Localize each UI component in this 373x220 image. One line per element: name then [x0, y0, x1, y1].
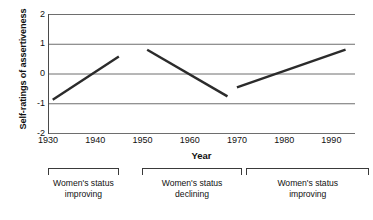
- x-tick-label: 1990: [311, 136, 351, 145]
- annotation-label-line2: improving: [232, 189, 373, 200]
- y-tick-label: 0: [23, 69, 45, 78]
- data-lines: [53, 50, 346, 100]
- data-line-segment-1: [53, 57, 119, 100]
- annotation-brackets: Women's statusimprovingWomen's statusdec…: [0, 168, 362, 220]
- annotation-label-line1: Women's status: [277, 178, 338, 188]
- y-tick-label: 2: [23, 10, 45, 19]
- x-tick-label: 1970: [217, 136, 257, 145]
- x-tick-label: 1930: [28, 136, 68, 145]
- plot-area: [48, 14, 355, 133]
- x-tick-label: 1950: [122, 136, 162, 145]
- x-axis-title: Year: [48, 150, 355, 161]
- y-tick-label: 1: [23, 39, 45, 48]
- data-line-segment-2: [147, 50, 227, 97]
- x-tick-label: 1960: [170, 136, 210, 145]
- annotation-label-line1: Women's status: [53, 178, 114, 188]
- annotation-label-line2: improving: [34, 189, 133, 200]
- plot-svg: [48, 14, 355, 133]
- y-axis-tick-labels: 210-1-2: [20, 0, 45, 147]
- x-tick-label: 1940: [75, 136, 115, 145]
- annotation-label: Women's statusimproving: [34, 178, 133, 200]
- annotation-bracket-icon: [142, 168, 241, 175]
- annotation-label-line1: Women's status: [162, 178, 223, 188]
- annotation-bracket-icon: [246, 168, 369, 175]
- data-line-segment-3: [237, 50, 346, 88]
- y-tick-label: -1: [23, 99, 45, 108]
- x-tick-label: 1980: [264, 136, 304, 145]
- annotation-label: Women's statusimproving: [232, 178, 373, 200]
- annotation-bracket-icon: [48, 168, 119, 175]
- x-axis-tick-labels: 1930194019501960197019801990: [0, 136, 362, 150]
